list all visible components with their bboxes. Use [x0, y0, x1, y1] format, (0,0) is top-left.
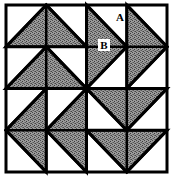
- label-b: B: [100, 39, 108, 51]
- label-a: A: [116, 11, 124, 23]
- quilt-block-figure: A B: [0, 0, 174, 177]
- quilt-block-diagram: A B: [0, 0, 174, 177]
